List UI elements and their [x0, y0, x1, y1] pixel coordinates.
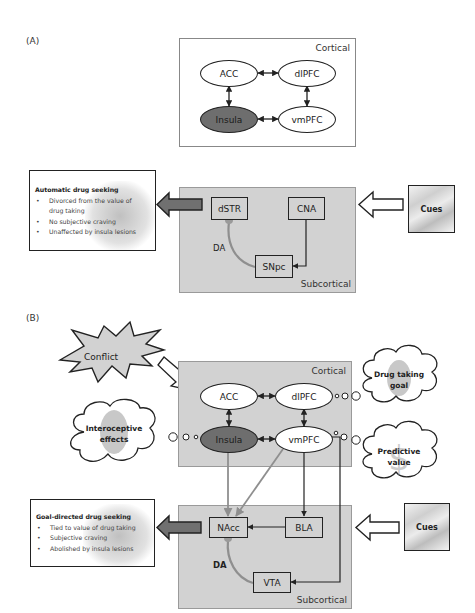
node-vta: VTA — [253, 572, 291, 593]
bullet-item: Subjective craving — [36, 533, 149, 544]
node-dlpfc-b: dlPFC — [275, 383, 333, 410]
cues-arrow-b — [356, 515, 399, 540]
bullet-item: Abolished by insula lesions — [36, 544, 149, 555]
node-acc-b: ACC — [200, 383, 258, 410]
node-nacc: NAcc — [209, 517, 248, 538]
bullet-item: Tied to value of drug taking — [36, 523, 149, 534]
goal-directed-title: Goal-directed drug seeking — [36, 512, 149, 523]
node-insula-b: Insula — [200, 426, 258, 453]
cues-label-b: Cues — [416, 523, 438, 532]
node-vmpfc-b: vmPFC — [275, 426, 333, 453]
node-bla: BLA — [285, 517, 323, 538]
goal-directed-seeking-box: Goal-directed drug seeking Tied to value… — [30, 499, 155, 567]
output-arrow-b — [157, 516, 201, 539]
cues-box-b: Cues — [404, 503, 450, 551]
da-label-b: DA — [213, 560, 227, 570]
